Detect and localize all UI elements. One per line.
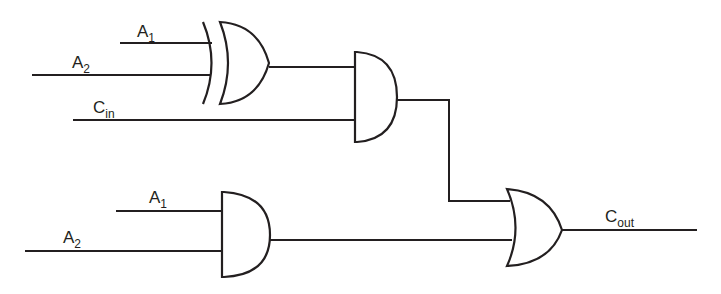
and-gate-1 [355,52,397,142]
and1-body [355,52,397,142]
and2-body [222,192,270,277]
or-gate [507,189,562,266]
xor-back-curve [203,22,212,104]
label-cin: Cin [93,98,115,121]
or-body [507,189,562,266]
label-and-a2: A2 [63,228,81,251]
logic-circuit-diagram: A1 A2 Cin A1 A2 Cout [0,0,721,294]
xor-gate [203,22,269,104]
label-xor-a1: A1 [137,22,155,45]
wire-and1-to-or [397,100,510,201]
xor-body [220,22,269,104]
label-xor-a2: A2 [72,53,90,76]
label-and-a1: A1 [149,188,167,211]
label-cout: Cout [605,207,635,230]
and-gate-2 [222,192,270,277]
